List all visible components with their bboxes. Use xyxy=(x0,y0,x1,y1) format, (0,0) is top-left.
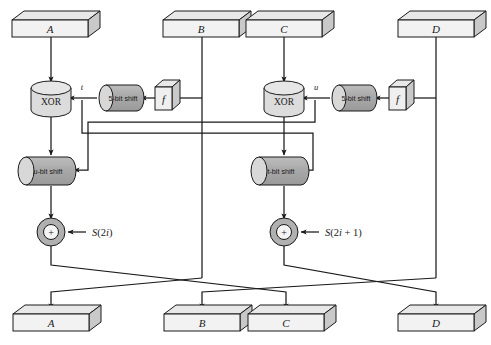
adder-right-label: + xyxy=(281,227,287,238)
shift-const-left[interactable]: 5-bit shift xyxy=(99,85,144,111)
xor-right[interactable]: XOR xyxy=(264,81,304,117)
adder-left-label: + xyxy=(48,227,54,238)
register-top-d-label: D xyxy=(431,23,440,35)
register-bottom-d[interactable]: D xyxy=(398,305,486,331)
shift-var-left-label: u-bit shift xyxy=(33,167,62,176)
shift-var-right-label: t-bit shift xyxy=(267,167,294,176)
register-bottom-a[interactable]: A xyxy=(13,305,101,331)
shift-var-right[interactable]: t-bit shift xyxy=(251,157,309,185)
register-bottom-d-label: D xyxy=(431,317,440,329)
register-bottom-b-label: B xyxy=(199,317,206,329)
shift-const-right[interactable]: 5-bit shift xyxy=(332,85,377,111)
wire-add-left-to-c-bottom xyxy=(51,246,286,309)
register-top-c-label: C xyxy=(280,23,288,35)
key-input-right-label: S(2i + 1) xyxy=(325,227,362,239)
f-left[interactable]: f xyxy=(155,80,180,110)
register-top-d[interactable]: D xyxy=(398,11,486,37)
wire-label-t: t xyxy=(81,82,84,92)
figure-canvas: A B C D XOR XOR 5-bit shift xyxy=(0,0,491,345)
wire-add-right-to-d-bottom xyxy=(284,246,436,309)
register-top-b[interactable]: B xyxy=(163,11,251,37)
register-bottom-a-label: A xyxy=(47,317,55,329)
shift-const-left-label: 5-bit shift xyxy=(108,94,137,103)
register-top-c[interactable]: C xyxy=(246,11,334,37)
shift-const-right-label: 5-bit shift xyxy=(341,94,370,103)
wire-layer xyxy=(51,29,436,309)
xor-right-label: XOR xyxy=(274,97,295,107)
register-bottom-c[interactable]: C xyxy=(248,305,336,331)
wire-d-to-b-bottom xyxy=(202,278,436,309)
f-right[interactable]: f xyxy=(389,80,414,110)
register-top-b-label: B xyxy=(198,23,205,35)
wire-b-to-a-bottom xyxy=(51,278,202,309)
register-bottom-b[interactable]: B xyxy=(164,305,252,331)
register-top-a-label: A xyxy=(46,23,54,35)
key-input-left-label: S(2i) xyxy=(92,227,113,239)
dataflow-diagram: A B C D XOR XOR 5-bit shift xyxy=(0,0,491,345)
register-bottom-c-label: C xyxy=(282,317,290,329)
xor-left[interactable]: XOR xyxy=(31,81,71,117)
adder-right[interactable]: + xyxy=(270,218,298,246)
register-top-a[interactable]: A xyxy=(12,11,100,37)
shift-var-left[interactable]: u-bit shift xyxy=(18,157,76,185)
adder-left[interactable]: + xyxy=(37,218,65,246)
xor-left-label: XOR xyxy=(41,97,62,107)
wire-label-u: u xyxy=(314,82,318,92)
